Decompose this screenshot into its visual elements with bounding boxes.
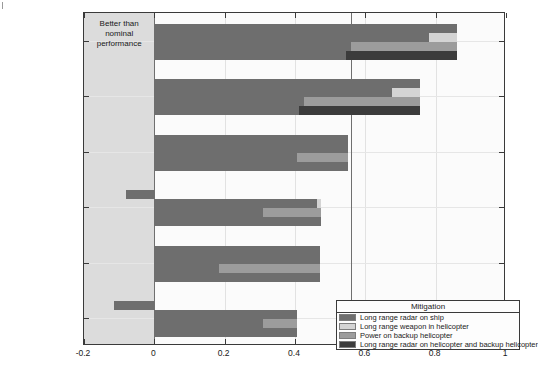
y-tick-right-4 <box>499 263 504 264</box>
x-tick-0 <box>84 339 85 344</box>
region-divider-2 <box>351 13 352 344</box>
chart-legend[interactable]: Mitigation Long range radar on shipLong … <box>336 300 520 350</box>
x-tick-label-3: 0.4 <box>288 348 300 358</box>
bar-segment-0-2 <box>351 42 457 51</box>
bar-0-2[interactable] <box>154 42 456 51</box>
y-tick-1 <box>84 96 89 97</box>
x-tick-top-4 <box>365 13 366 18</box>
legend-entry-1[interactable]: Long range weapon in helicopter <box>337 322 519 331</box>
region-divider-1 <box>154 13 155 344</box>
bar-segment-2-2 <box>297 153 348 162</box>
bar-segment-4-2 <box>219 264 319 273</box>
region-shading-0 <box>84 13 154 344</box>
y-tick-right-1 <box>499 96 504 97</box>
y-tick-0 <box>84 41 89 42</box>
x-tick-label-0: -0.2 <box>76 348 91 358</box>
bar-segment-0-3 <box>346 51 457 60</box>
bar-1-1[interactable] <box>154 88 420 97</box>
bar-1-3[interactable] <box>154 106 420 115</box>
legend-entry-list: Long range radar on shipLong range weapo… <box>337 313 519 349</box>
legend-swatch-1 <box>339 323 356 330</box>
bar-3-0[interactable] <box>126 190 154 199</box>
bar-0-1[interactable] <box>154 33 456 42</box>
legend-entry-0[interactable]: Long range radar on ship <box>337 313 519 322</box>
bar-segment-3-1 <box>317 199 321 208</box>
bar-2-2[interactable] <box>154 153 347 162</box>
bar-4-1[interactable] <box>154 255 319 264</box>
x-tick-2 <box>225 339 226 344</box>
legend-label-1: Long range weapon in helicopter <box>360 322 469 331</box>
bar-0-3[interactable] <box>154 51 456 60</box>
y-tick-2 <box>84 152 89 153</box>
legend-swatch-2 <box>339 332 356 339</box>
bar-segment-1-2 <box>304 97 420 106</box>
bar-5-3[interactable] <box>154 328 296 337</box>
bar-4-3[interactable] <box>154 273 319 282</box>
bar-4-0[interactable] <box>154 246 319 255</box>
bar-5-2[interactable] <box>154 319 296 328</box>
bar-2-3[interactable] <box>154 162 347 171</box>
bar-1-2[interactable] <box>154 97 420 106</box>
x-tick-label-1: 0 <box>151 348 156 358</box>
x-tick-3 <box>295 339 296 344</box>
legend-title: Mitigation <box>337 301 519 313</box>
bar-5-0[interactable] <box>114 301 154 310</box>
legend-entry-3[interactable]: Long range radar on helicopter and backu… <box>337 340 519 349</box>
gridline-x-5 <box>436 13 437 344</box>
legend-label-0: Long range radar on ship <box>360 313 444 322</box>
gridline-x-3 <box>295 13 296 344</box>
legend-label-3: Long range radar on helicopter and backu… <box>360 340 538 349</box>
y-tick-right-2 <box>499 152 504 153</box>
x-tick-top-0 <box>84 13 85 18</box>
x-tick-top-2 <box>225 13 226 18</box>
x-tick-label-2: 0.2 <box>218 348 230 358</box>
bar-segment-1-3 <box>299 106 420 115</box>
y-tick-5 <box>84 318 89 319</box>
gridline-x-2 <box>225 13 226 344</box>
y-tick-right-0 <box>499 41 504 42</box>
bar-segment-5-2 <box>263 319 296 328</box>
plot-axes: Better thannominalperformanceAcceptablep… <box>83 12 505 345</box>
corner-mark <box>2 2 3 9</box>
bar-4-2[interactable] <box>154 264 319 273</box>
bar-3-1[interactable] <box>154 199 321 208</box>
x-tick-1 <box>154 339 155 344</box>
legend-label-2: Power on backup helicopter <box>360 331 453 340</box>
bar-segment-3-2 <box>263 208 321 217</box>
bar-0-0[interactable] <box>154 24 456 33</box>
bar-3-2[interactable] <box>154 208 321 217</box>
bar-3-3[interactable] <box>154 217 321 226</box>
x-tick-top-5 <box>436 13 437 18</box>
x-tick-top-3 <box>295 13 296 18</box>
bar-segment-1-1 <box>392 88 420 97</box>
y-tick-3 <box>84 207 89 208</box>
gridline-x-4 <box>365 13 366 344</box>
bar-2-1[interactable] <box>154 144 347 153</box>
bar-2-0[interactable] <box>154 135 347 144</box>
bar-5-1[interactable] <box>154 310 296 319</box>
bar-segment-0-1 <box>429 33 457 42</box>
x-tick-top-1 <box>154 13 155 18</box>
legend-entry-2[interactable]: Power on backup helicopter <box>337 331 519 340</box>
legend-swatch-3 <box>339 341 356 348</box>
x-tick-top-6 <box>506 13 507 18</box>
legend-swatch-0 <box>339 314 356 321</box>
bar-1-0[interactable] <box>154 79 420 88</box>
y-tick-right-3 <box>499 207 504 208</box>
y-tick-4 <box>84 263 89 264</box>
